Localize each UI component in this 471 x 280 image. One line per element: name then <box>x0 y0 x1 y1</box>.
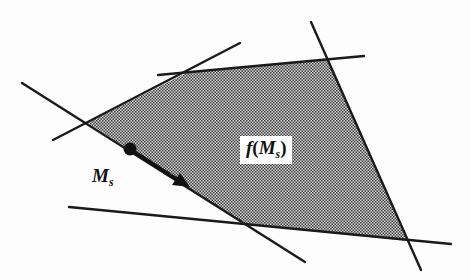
point-label: Ms <box>92 166 114 189</box>
point-label-var: M <box>92 165 109 186</box>
diagram-canvas: Ms f(Ms) <box>0 0 471 280</box>
point-marker <box>124 143 137 156</box>
region-label: f(Ms) <box>240 136 292 164</box>
point-label-sub: s <box>109 176 114 189</box>
region-label-var: M <box>259 137 276 158</box>
region-label-close-paren: ) <box>280 137 286 158</box>
diagram-graphic <box>0 0 471 280</box>
